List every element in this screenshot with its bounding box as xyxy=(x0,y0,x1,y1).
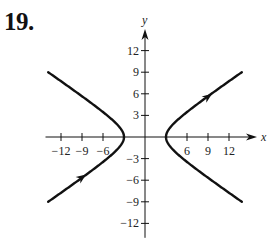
x-tick-label: −12 xyxy=(52,144,71,158)
direction-arrow-icon xyxy=(202,94,212,103)
y-tick-label: −12 xyxy=(120,216,139,230)
x-tick-label: −6 xyxy=(97,144,110,158)
x-axis-label: x xyxy=(260,130,267,144)
axes xyxy=(46,29,258,238)
y-tick-label: 3 xyxy=(133,108,139,122)
y-tick-label: 9 xyxy=(133,65,139,79)
y-axis-label: y xyxy=(141,13,148,27)
hyperbola-graph: −12−9−6691212963−3−6−9−12 x y xyxy=(0,0,271,244)
y-tick-label: 12 xyxy=(127,44,139,58)
x-tick-label: 12 xyxy=(223,144,235,158)
y-tick-label: −6 xyxy=(126,173,139,187)
x-tick-label: 6 xyxy=(184,144,190,158)
x-tick-label: 9 xyxy=(205,144,211,158)
y-tick-label: −9 xyxy=(126,195,139,209)
y-tick-label: −3 xyxy=(126,152,139,166)
y-tick-label: 6 xyxy=(133,87,139,101)
x-tick-label: −9 xyxy=(76,144,89,158)
